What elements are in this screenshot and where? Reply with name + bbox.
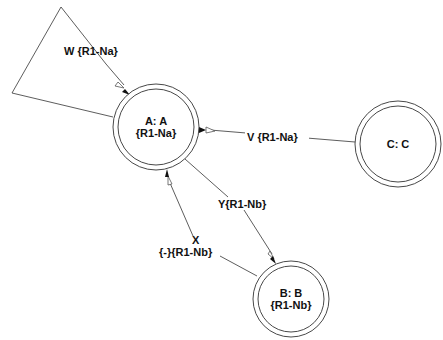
solid-arrow-icon — [199, 127, 206, 133]
node-a-subtitle: {R1-Na} — [136, 127, 177, 139]
node-a-title: A: A — [145, 115, 167, 127]
node-c-title: C: C — [387, 138, 410, 150]
hollow-arrow-icon — [206, 127, 215, 133]
state-diagram: W {R1-Na} V {R1-Na} Y{R1-Nb} X {-}{R1-Nb… — [0, 0, 443, 340]
edge-label-w: W {R1-Na} — [64, 45, 119, 57]
edge-v[interactable]: V {R1-Na} — [199, 127, 355, 144]
edge-label-x-line1: X — [192, 234, 200, 246]
state-node-b[interactable]: B: B {R1-Nb} — [253, 261, 329, 337]
solid-arrow-icon — [165, 169, 169, 177]
node-b-title: B: B — [280, 287, 303, 299]
edge-label-y: Y{R1-Nb} — [218, 198, 267, 210]
node-b-subtitle: {R1-Nb} — [271, 299, 313, 311]
hollow-arrow-icon — [168, 176, 172, 185]
solid-arrow-icon — [270, 256, 276, 264]
edge-x[interactable]: X {-}{R1-Nb} — [159, 169, 257, 276]
edge-label-v: V {R1-Na} — [247, 131, 298, 143]
state-node-c[interactable]: C: C — [355, 101, 441, 187]
edge-w[interactable]: W {R1-Na} — [12, 7, 130, 117]
edge-label-x-line2: {-}{R1-Nb} — [159, 246, 213, 258]
state-node-a[interactable]: A: A {R1-Na} — [113, 84, 199, 170]
